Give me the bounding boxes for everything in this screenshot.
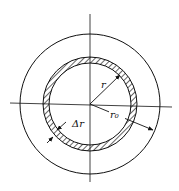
spherical-shell-diagram: r r₀ Δr [0,0,179,191]
thickness-arrow-in [57,122,66,130]
label-r0: r₀ [110,109,119,120]
label-delta-r: Δr [71,118,85,129]
thickness-arrow-out [47,137,53,143]
